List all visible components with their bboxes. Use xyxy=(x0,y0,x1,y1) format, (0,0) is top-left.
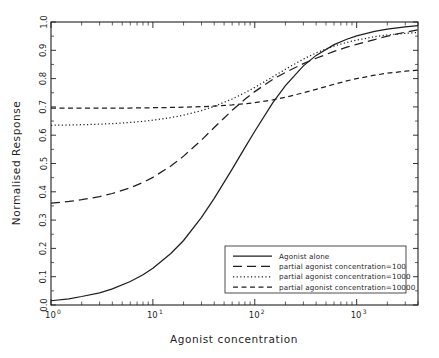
chart-figure: 0.00.10.20.30.40.50.60.70.80.91.0 100101… xyxy=(0,0,439,358)
curve-series-3 xyxy=(51,70,418,108)
y-axis-title: Normalised Response xyxy=(10,101,22,226)
y-tick-label: 0.3 xyxy=(39,213,49,227)
y-tick-label: 1.0 xyxy=(39,15,49,29)
x-axis-title: Agonist concentration xyxy=(170,333,298,345)
y-tick-label: 0.6 xyxy=(39,128,49,142)
x-tick-label-exponent: 3 xyxy=(363,308,367,315)
x-tick-label-exponent: 1 xyxy=(159,308,163,315)
x-tick-label: 10 xyxy=(147,310,158,320)
legend-label-0: Agonist alone xyxy=(279,252,330,261)
y-tick-label: 0.5 xyxy=(39,157,49,171)
y-tick-label: 0.9 xyxy=(39,44,49,58)
legend-label-2: partial agonist concentration=1000 xyxy=(279,272,411,281)
y-tick-label: 0.8 xyxy=(39,72,49,86)
x-tick-label: 10 xyxy=(249,310,260,320)
y-tick-label: 0.2 xyxy=(39,242,49,256)
y-tick-label: 0.4 xyxy=(39,185,49,199)
x-tick-label: 10 xyxy=(351,310,362,320)
legend: Agonist alonepartial agonist concentrati… xyxy=(225,246,416,293)
dose-response-plot: 0.00.10.20.30.40.50.60.70.80.91.0 100101… xyxy=(0,0,439,358)
y-tick-label: 0.7 xyxy=(39,100,49,114)
y-tick-label: 0.1 xyxy=(39,270,49,284)
curve-series-1 xyxy=(51,30,418,203)
legend-label-1: partial agonist concentration=100 xyxy=(279,262,406,271)
x-tick-label: 10 xyxy=(45,310,56,320)
x-tick-label-exponent: 2 xyxy=(261,308,265,315)
curve-series-2 xyxy=(51,32,418,125)
x-tick-label-exponent: 0 xyxy=(57,308,61,315)
legend-label-3: partial agonist concentration=10000 xyxy=(279,283,416,292)
